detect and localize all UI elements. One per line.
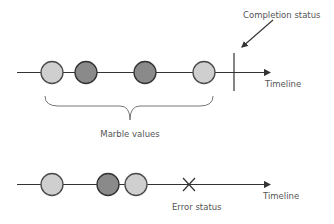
timeline-label: Timeline	[264, 79, 301, 89]
marble-light	[193, 62, 215, 84]
marble-diagram: Timeline Completion status Marble values…	[0, 0, 334, 224]
marble-light	[41, 174, 63, 196]
marble-dark	[134, 62, 156, 84]
marble-light	[41, 62, 63, 84]
marble-light	[125, 174, 147, 196]
marble-dark	[75, 62, 97, 84]
completion-status-label: Completion status	[243, 10, 321, 20]
marble-values-brace: Marble values	[45, 96, 213, 139]
callout-arrow	[242, 20, 273, 47]
timeline-label: Timeline	[262, 191, 299, 201]
marble-dark	[97, 174, 119, 196]
curly-brace	[45, 96, 213, 120]
bottom-timeline: Timeline Error status	[17, 174, 299, 213]
top-timeline: Timeline	[17, 53, 301, 91]
error-status-label: Error status	[172, 202, 222, 212]
marble-values-label: Marble values	[100, 129, 160, 139]
completion-callout: Completion status	[242, 10, 321, 47]
